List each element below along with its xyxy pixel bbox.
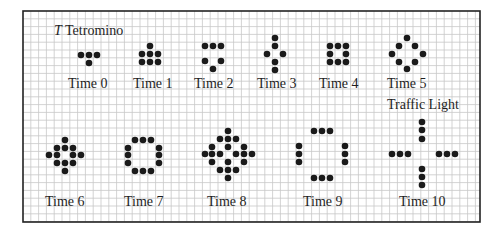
- live-cell-dot: [78, 52, 85, 59]
- live-cell-dot: [210, 43, 217, 50]
- live-cell-dot: [241, 144, 248, 151]
- live-cell-dot: [444, 151, 451, 158]
- title-text: Tetromino: [65, 23, 123, 38]
- live-cell-dot: [327, 175, 334, 182]
- live-cell-dot: [280, 51, 287, 58]
- live-cell-dot: [209, 144, 216, 151]
- live-cell-dot: [132, 168, 139, 175]
- live-cell-dot: [70, 145, 77, 152]
- live-cell-dot: [62, 137, 69, 144]
- live-cell-dot: [148, 137, 155, 144]
- live-cell-dot: [296, 143, 303, 150]
- live-cell-dot: [225, 136, 232, 143]
- live-cell-dot: [343, 51, 350, 58]
- live-cell-dot: [225, 159, 232, 166]
- live-cell-dot: [209, 151, 216, 158]
- cell-pattern-time-1: [139, 43, 162, 66]
- live-cell-dot: [62, 145, 69, 152]
- live-cell-dot: [327, 43, 334, 50]
- live-cell-dot: [327, 51, 334, 58]
- live-cell-dot: [156, 145, 163, 152]
- live-cell-dot: [249, 151, 256, 158]
- time-label-1: Time 1: [133, 77, 173, 91]
- live-cell-dot: [452, 151, 459, 158]
- live-cell-dot: [419, 119, 426, 126]
- cell-pattern-time-4: [327, 43, 350, 66]
- live-cell-dot: [155, 51, 162, 58]
- live-cell-dot: [217, 151, 224, 158]
- live-cell-dot: [296, 151, 303, 158]
- live-cell-dot: [404, 66, 411, 73]
- live-cell-dot: [147, 43, 154, 50]
- live-cell-dot: [412, 59, 419, 66]
- live-cell-dot: [342, 159, 349, 166]
- live-cell-dot: [46, 152, 53, 159]
- live-cell-dot: [125, 160, 132, 167]
- grid-lines: [23, 11, 480, 222]
- live-cell-dot: [272, 67, 279, 74]
- live-cell-dot: [86, 52, 93, 59]
- cell-pattern-time-0: [78, 52, 101, 67]
- live-cell-dot: [233, 151, 240, 158]
- live-cell-dot: [202, 58, 209, 65]
- live-cell-dot: [343, 59, 350, 66]
- live-cell-dot: [140, 137, 147, 144]
- live-cell-dot: [125, 145, 132, 152]
- live-cell-dot: [225, 144, 232, 151]
- live-cell-dot: [139, 59, 146, 66]
- live-cell-dot: [86, 60, 93, 67]
- live-cell-dot: [264, 51, 271, 58]
- time-label-6: Time 6: [45, 195, 85, 209]
- live-cell-dot: [218, 43, 225, 50]
- cell-pattern-time-7: [125, 137, 163, 175]
- live-cell-dot: [412, 43, 419, 50]
- live-cell-dot: [225, 167, 232, 174]
- time-label-8: Time 8: [207, 195, 247, 209]
- live-cell-dot: [420, 51, 427, 58]
- live-cell-dot: [342, 143, 349, 150]
- live-cell-dot: [319, 175, 326, 182]
- cell-pattern-time-10: [389, 119, 459, 189]
- time-label-9: Time 9: [303, 195, 343, 209]
- live-cell-dot: [147, 59, 154, 66]
- live-cell-dot: [140, 168, 147, 175]
- live-cell-dot: [217, 167, 224, 174]
- live-cell-dot: [396, 59, 403, 66]
- live-cell-dot: [335, 59, 342, 66]
- live-cell-dot: [54, 160, 61, 167]
- live-cell-dot: [70, 152, 77, 159]
- cell-pattern-time-3: [264, 35, 287, 74]
- live-cell-dot: [147, 51, 154, 58]
- live-cell-dot: [139, 51, 146, 58]
- live-cell-dot: [343, 43, 350, 50]
- live-cell-dot: [78, 152, 85, 159]
- live-cell-dot: [218, 58, 225, 65]
- time-label-4: Time 4: [319, 77, 359, 91]
- live-cell-dot: [155, 59, 162, 66]
- traffic-light-label: Traffic Light: [387, 98, 459, 112]
- live-cell-dot: [419, 182, 426, 189]
- live-cell-dot: [241, 151, 248, 158]
- live-cell-dot: [94, 52, 101, 59]
- live-cell-dot: [156, 152, 163, 159]
- live-cell-dot: [241, 159, 248, 166]
- live-cell-dot: [54, 152, 61, 159]
- live-cell-dot: [62, 168, 69, 175]
- live-cell-dot: [419, 136, 426, 143]
- live-cell-dot: [210, 66, 217, 73]
- live-cell-dot: [397, 151, 404, 158]
- live-cell-dot: [327, 59, 334, 66]
- live-cell-dot: [396, 43, 403, 50]
- live-cell-dot: [225, 128, 232, 135]
- live-cell-dot: [389, 51, 396, 58]
- cell-pattern-time-6: [46, 137, 85, 175]
- live-cell-dot: [148, 168, 155, 175]
- live-cell-dot: [62, 160, 69, 167]
- live-cell-dot: [54, 145, 61, 152]
- live-cell-dot: [419, 174, 426, 181]
- live-cell-dot: [404, 35, 411, 42]
- live-cell-dot: [436, 151, 443, 158]
- live-cell-dot: [202, 43, 209, 50]
- live-cell-dot: [342, 151, 349, 158]
- time-label-2: Time 2: [194, 77, 234, 91]
